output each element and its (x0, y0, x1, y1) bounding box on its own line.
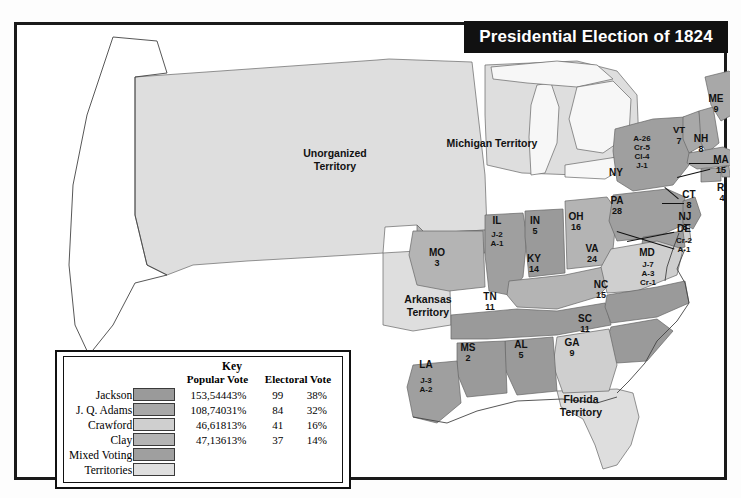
state-RI (721, 166, 730, 177)
state-NJ (683, 197, 701, 229)
key-row-clay: Clay 47,136 13% 37 14% (69, 432, 337, 447)
state-AL (505, 337, 557, 395)
key-row-crawford: Crawford 46,618 13% 41 16% (69, 417, 337, 432)
map-title-banner: Presidential Election of 1824 (464, 21, 728, 53)
key-swatch-clay (133, 433, 175, 446)
key-electoral-pct-territories (297, 462, 337, 477)
key-popular-jackson: 153,544 (176, 387, 226, 402)
key-popular-pct-adams: 31% (226, 402, 259, 417)
state-NH (699, 107, 719, 153)
key-electoral-crawford: 41 (259, 417, 297, 432)
key-header-popular-vote: Popular Vote (176, 373, 259, 387)
key-swatch-adams-cell (132, 402, 176, 417)
key-label-adams: J. Q. Adams (69, 402, 132, 417)
key-row-mixed-voting: Mixed Voting (69, 447, 337, 462)
leader-line-nj (662, 203, 684, 204)
key-popular-pct-clay: 13% (226, 432, 259, 447)
key-swatch-jackson-cell (132, 387, 176, 402)
key-electoral-territories (259, 462, 297, 477)
key-popular-pct-territories (226, 462, 259, 477)
key-swatch-adams (133, 403, 175, 416)
key-header-swatch (132, 373, 176, 387)
key-swatch-territories-cell (132, 462, 176, 477)
key-row-jackson: Jackson 153,544 43% 99 38% (69, 387, 337, 402)
key-row-territories: Territories (69, 462, 337, 477)
key-popular-pct-crawford: 13% (226, 417, 259, 432)
map-key-inner: Key Popular Vote Electoral Vote Jackson (63, 356, 343, 483)
state-IN (525, 209, 565, 277)
key-table: Popular Vote Electoral Vote Jackson 153,… (69, 373, 337, 477)
key-electoral-pct-mixed (297, 447, 337, 462)
state-MS (457, 341, 507, 397)
key-label-territories: Territories (69, 462, 132, 477)
key-popular-clay: 47,136 (176, 432, 226, 447)
key-swatch-jackson (133, 388, 175, 401)
key-electoral-pct-adams: 32% (297, 402, 337, 417)
key-title: Key (69, 360, 337, 372)
key-header-row: Popular Vote Electoral Vote (69, 373, 337, 387)
key-swatch-territories (133, 463, 175, 476)
key-swatch-mixed-cell (132, 447, 176, 462)
key-popular-pct-mixed (226, 447, 259, 462)
key-electoral-pct-jackson: 38% (297, 387, 337, 402)
key-electoral-adams: 84 (259, 402, 297, 417)
key-label-mixed-voting: Mixed Voting (69, 447, 132, 462)
region-florida-territory (557, 389, 639, 469)
leader-line-ma (689, 163, 719, 164)
key-header-electoral-vote: Electoral Vote (259, 373, 337, 387)
key-electoral-clay: 37 (259, 432, 297, 447)
running-head (0, 1, 741, 15)
map-key: Key Popular Vote Electoral Vote Jackson (55, 350, 351, 489)
key-swatch-crawford (133, 418, 175, 431)
key-label-crawford: Crawford (69, 417, 132, 432)
key-row-adams: J. Q. Adams 108,740 31% 84 32% (69, 402, 337, 417)
key-popular-mixed (176, 447, 226, 462)
state-GA (553, 329, 617, 393)
key-popular-pct-jackson: 43% (226, 387, 259, 402)
key-swatch-mixed-voting (133, 448, 175, 461)
map-frame: .s{stroke:#666;stroke-width:.7;} .coast{… (14, 22, 727, 480)
state-MO-body (409, 231, 485, 291)
key-electoral-jackson: 99 (259, 387, 297, 402)
key-swatch-crawford-cell (132, 417, 176, 432)
key-electoral-pct-clay: 14% (297, 432, 337, 447)
key-popular-territories (176, 462, 226, 477)
key-label-jackson: Jackson (69, 387, 132, 402)
key-electoral-mixed (259, 447, 297, 462)
key-swatch-clay-cell (132, 432, 176, 447)
key-header-blank (69, 373, 132, 387)
key-label-clay: Clay (69, 432, 132, 447)
key-body: Jackson 153,544 43% 99 38% J. Q. Adams 1… (69, 387, 337, 477)
key-electoral-pct-crawford: 16% (297, 417, 337, 432)
key-popular-crawford: 46,618 (176, 417, 226, 432)
state-LA (407, 361, 461, 423)
key-popular-adams: 108,740 (176, 402, 226, 417)
map-page: .s{stroke:#666;stroke-width:.7;} .coast{… (0, 0, 741, 498)
